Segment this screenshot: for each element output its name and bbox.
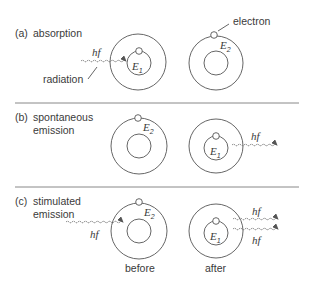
caption-before: before <box>125 262 155 274</box>
photon-label-hf: hf <box>92 46 103 58</box>
electron-icon <box>136 199 143 206</box>
out-photon-arrow-2 <box>233 228 278 230</box>
caption-after: after <box>205 262 227 274</box>
section-b-title-line2: emission <box>33 124 75 136</box>
outer-orbit-e2 <box>111 203 167 259</box>
section-c-title-line2: emission <box>33 208 75 220</box>
level-label-e2: E2 <box>143 206 155 220</box>
section-a-title: absorption <box>33 27 82 39</box>
section-c-title-line1: stimulated <box>33 195 81 207</box>
out-photon-label-2: hf <box>252 234 263 246</box>
atom-after: E1 <box>189 204 243 258</box>
electron-icon <box>213 218 220 225</box>
level-label-e1: E1 <box>209 230 221 244</box>
section-b-title-line1: spontaneous <box>33 111 93 123</box>
inner-orbit-e1 <box>127 134 151 158</box>
inner-orbit-e1 <box>204 51 228 75</box>
atom-relaxed: E1 <box>189 119 243 173</box>
radiation-annotation: radiation <box>43 73 83 85</box>
emitted-photon-arrow <box>232 144 277 146</box>
level-label-e2: E2 <box>219 39 231 53</box>
incoming-photon-label: hf <box>90 228 101 240</box>
energy-transition-diagram: (a) absorption hf radiation E1 E2 electr… <box>0 0 310 286</box>
inner-orbit-e1 <box>127 219 151 243</box>
electron-pointer-line <box>218 24 229 31</box>
atom-excited: E2 <box>111 115 167 174</box>
electron-icon <box>213 133 220 140</box>
electron-icon <box>135 115 142 122</box>
section-a-tag: (a) <box>15 27 28 39</box>
level-label-e1: E1 <box>209 145 221 159</box>
section-c-tag: (c) <box>15 195 27 207</box>
section-b-tag: (b) <box>15 111 28 123</box>
outer-orbit-e2 <box>111 118 167 174</box>
radiation-pointer-line <box>88 67 97 79</box>
section-spontaneous-emission: (b) spontaneous emission E2 E1 hf <box>15 111 277 174</box>
emitted-photon-label: hf <box>251 130 262 142</box>
incoming-photon-arrow <box>66 221 123 223</box>
level-label-e1: E1 <box>131 60 143 74</box>
electron-annotation: electron <box>233 15 271 27</box>
section-stimulated-emission: (c) stimulated emission hf E2 before E1 … <box>15 195 278 274</box>
atom-before-absorption: E1 <box>110 34 166 90</box>
incoming-photon-arrow <box>81 60 126 62</box>
level-label-e2: E2 <box>142 121 154 135</box>
outer-orbit-e2 <box>189 36 243 90</box>
atom-before: E2 <box>111 199 167 259</box>
atom-after-absorption: E2 <box>189 32 243 90</box>
electron-icon <box>136 48 143 55</box>
out-photon-label-1: hf <box>252 205 263 217</box>
electron-icon <box>211 32 218 39</box>
section-absorption: (a) absorption hf radiation E1 E2 electr… <box>15 15 271 90</box>
